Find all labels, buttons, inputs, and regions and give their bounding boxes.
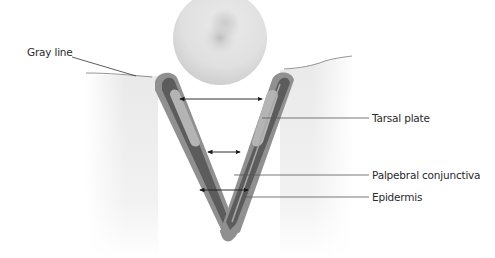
left-eyelid xyxy=(155,73,238,240)
label-tarsal-plate: Tarsal plate xyxy=(372,112,430,124)
eyelid-tip xyxy=(220,230,238,242)
diagram-canvas xyxy=(0,0,495,258)
label-gray-line: Gray line xyxy=(27,46,73,58)
surrounding-tissue xyxy=(86,55,354,258)
eyelid-diagram: Gray line Tarsal plate Palpebral conjunc… xyxy=(0,0,495,258)
label-epidermis: Epidermis xyxy=(372,191,422,203)
label-palpebral-conjunctiva: Palpebral conjunctiva xyxy=(372,169,480,181)
eyeball xyxy=(173,0,267,85)
